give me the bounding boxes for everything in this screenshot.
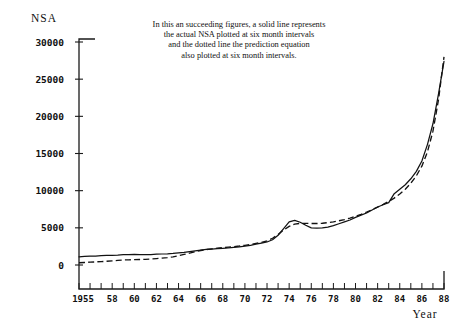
chart-figure: 050001000015000200002500030000 195558606… [0, 0, 466, 327]
caption-line: In this an succeeding figures, a solid l… [153, 20, 326, 29]
x-axis-tick-label: 86 [416, 294, 427, 304]
x-axis-tick-label: 84 [394, 294, 405, 304]
chart-series-group [79, 57, 444, 263]
y-axis-tick-label: 10000 [35, 185, 64, 196]
y-axis-tick-label: 0 [58, 260, 64, 271]
x-axis-tick-label: 80 [350, 294, 361, 304]
x-axis-ticks [79, 283, 444, 289]
x-axis-tick-label: 58 [107, 294, 118, 304]
x-axis-tick-label: 1955 [72, 294, 94, 304]
chart-annotation-caption: In this an succeeding figures, a solid l… [153, 20, 326, 60]
y-axis-tick-label: 25000 [35, 74, 64, 85]
x-axis-tick-label: 74 [284, 294, 295, 304]
series-prediction-line [79, 57, 444, 263]
nsa-line-chart: 050001000015000200002500030000 195558606… [0, 0, 466, 327]
x-axis-tick-label: 78 [328, 294, 339, 304]
x-axis-tick-label: 68 [217, 294, 228, 304]
x-axis-tick-label: 66 [195, 294, 206, 304]
x-axis-tick-label: 76 [306, 294, 317, 304]
x-axis-tick-label: 88 [439, 294, 450, 304]
y-axis-tick-label: 15000 [35, 148, 64, 159]
x-axis-tick-label: 62 [151, 294, 162, 304]
x-axis-tick-label: 72 [262, 294, 273, 304]
x-axis-tick-label: 70 [239, 294, 250, 304]
y-axis-tick-label: 30000 [35, 37, 64, 48]
x-axis-title: Year [412, 308, 437, 320]
x-axis-tick-label: 64 [173, 294, 184, 304]
y-axis-tick-label: 5000 [41, 222, 64, 233]
x-axis-tick-label: 82 [372, 294, 383, 304]
caption-line: the actual NSA plotted at six month inte… [164, 30, 315, 39]
x-axis-tick-label: 60 [129, 294, 140, 304]
chart-axes [79, 39, 444, 289]
axis-frame [79, 39, 444, 289]
caption-line: also plotted at six month intervals. [181, 51, 296, 60]
y-axis-tick-labels: 050001000015000200002500030000 [35, 37, 64, 271]
series-actual-nsa-line [79, 61, 444, 256]
caption-line: and the dotted line the prediction equat… [168, 40, 310, 49]
y-axis-tick-label: 20000 [35, 111, 64, 122]
x-axis-tick-labels: 195558606264666870727476788082848688 [72, 294, 449, 304]
y-axis-title: NSA [31, 12, 57, 24]
